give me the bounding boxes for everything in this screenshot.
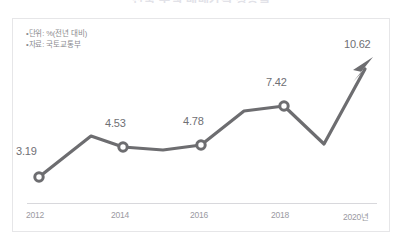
data-marker bbox=[119, 143, 127, 151]
x-tick-2018: 2018 bbox=[271, 210, 289, 220]
data-marker bbox=[35, 173, 43, 181]
value-label-2020: 10.62 bbox=[344, 38, 371, 50]
value-label-2018: 7.42 bbox=[266, 76, 287, 88]
x-tick-2016: 2016 bbox=[190, 210, 208, 220]
x-tick-2014: 2014 bbox=[111, 210, 129, 220]
chart-panel: •단위: %(전년 대비) •자료: 국토교통부 3.19 4.53 4.78 … bbox=[12, 18, 390, 232]
value-label-2014: 4.53 bbox=[105, 117, 126, 129]
chart-headline: 전국 주택 매매가격 상승률 bbox=[0, 0, 403, 3]
trend-arrow-icon bbox=[353, 57, 373, 82]
x-tick-2020: 2020년 bbox=[343, 210, 369, 222]
value-label-2012: 3.19 bbox=[16, 145, 37, 157]
data-marker bbox=[280, 102, 288, 110]
data-marker bbox=[197, 141, 205, 149]
x-tick-2012: 2012 bbox=[26, 210, 44, 220]
value-label-2016: 4.78 bbox=[183, 115, 204, 127]
